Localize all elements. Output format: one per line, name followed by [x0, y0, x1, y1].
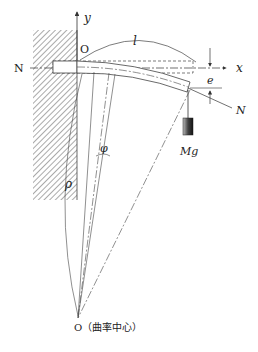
eccentricity-label: e: [207, 74, 214, 87]
x-axis-label: x: [236, 61, 243, 75]
beam-root: [53, 61, 77, 73]
length-label: l: [133, 34, 137, 48]
radial-lines: [78, 72, 190, 318]
axial-force-left-label: N: [14, 62, 24, 75]
radius-label: ρ: [64, 177, 72, 191]
length-arc: [80, 40, 196, 62]
curvature-center-label: O（曲率中心）: [74, 321, 142, 333]
angle-label: φ: [100, 142, 108, 155]
axial-force-right-label: N: [235, 104, 246, 117]
fixed-wall: [33, 30, 77, 200]
beam-bending-diagram: y x N O l e N Mg ρ φ O（曲率中心）: [0, 0, 258, 352]
weight-block: [183, 118, 193, 135]
weight-label: Mg: [179, 145, 198, 158]
origin-label: O: [80, 43, 89, 56]
y-axis-label: y: [83, 11, 91, 25]
